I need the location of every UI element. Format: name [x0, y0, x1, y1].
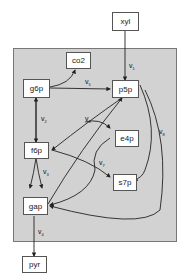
node-f6p: f6p — [24, 142, 49, 159]
node-pyr: pyr — [22, 256, 47, 273]
node-g6p: g6p — [23, 79, 50, 98]
node-s7p: s7p — [113, 174, 137, 191]
node-xyl: xyl — [112, 12, 139, 31]
label-v7: v7 — [99, 159, 105, 168]
label-v6: v6 — [85, 115, 91, 124]
node-co2: co2 — [66, 52, 91, 69]
label-v8: v8 — [159, 128, 165, 137]
label-v5: v5 — [85, 78, 91, 87]
node-e4p: e4p — [115, 130, 139, 147]
label-v1: v1 — [129, 62, 135, 71]
node-gap: gap — [23, 197, 48, 215]
node-p5p: p5p — [112, 80, 139, 98]
reaction-arrows — [0, 0, 185, 280]
label-v4: v4 — [38, 228, 44, 237]
label-v3: v3 — [43, 168, 49, 177]
label-v2: v2 — [41, 115, 47, 124]
